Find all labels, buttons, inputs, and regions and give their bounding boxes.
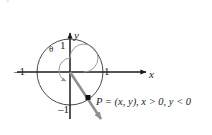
x-tick-label-positive: 1 [104,66,110,77]
angle-theta-label: θ [49,45,53,54]
y-tick-label-positive: 1 [60,40,66,51]
unit-circle-figure: ◦ y x 1 –1 1 –1 [0,0,212,135]
x-tick-label-negative: –1 [14,66,25,77]
y-axis-label: y [74,30,79,41]
x-axis-label: x [149,69,154,80]
point-p-label: P = (x, y), x > 0, y < 0 [96,97,191,108]
point-p-marker [86,95,91,100]
y-tick-label-negative: –1 [58,104,69,115]
